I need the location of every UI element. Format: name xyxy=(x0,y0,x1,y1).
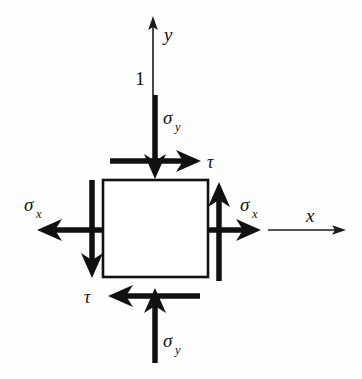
x-axis-group xyxy=(268,225,346,235)
sigma-y-bottom-label: σ y xyxy=(163,330,181,357)
sigma-symbol: σ xyxy=(240,194,250,215)
sigma-symbol: σ xyxy=(163,107,173,128)
stress-element-figure: 1 y x σ y σ y σ x σ x τ τ xyxy=(0,0,362,379)
sigma-subscript: x xyxy=(251,207,258,221)
sigma-x-right-label: σ x xyxy=(240,194,258,221)
sigma-y-bottom-arrow xyxy=(144,288,166,363)
tau-bottom-label: τ xyxy=(84,287,91,307)
y-axis-label: y xyxy=(162,24,173,45)
x-axis-label: x xyxy=(305,205,315,226)
y-axis-group xyxy=(148,16,158,95)
sigma-x-left-label: σ x xyxy=(24,194,42,221)
stress-square xyxy=(103,180,208,277)
sigma-y-top-label: σ y xyxy=(163,107,181,134)
element-number-label: 1 xyxy=(135,68,145,89)
tau-top-label: τ xyxy=(207,152,214,172)
sigma-subscript: x xyxy=(35,207,42,221)
sigma-x-right-arrow xyxy=(208,219,261,241)
sigma-symbol: σ xyxy=(163,330,173,351)
diagram-canvas: 1 y x σ y σ y σ x σ x τ τ xyxy=(0,0,362,379)
sigma-subscript: y xyxy=(173,120,181,134)
sigma-subscript: y xyxy=(173,343,181,357)
sigma-symbol: σ xyxy=(24,194,34,215)
